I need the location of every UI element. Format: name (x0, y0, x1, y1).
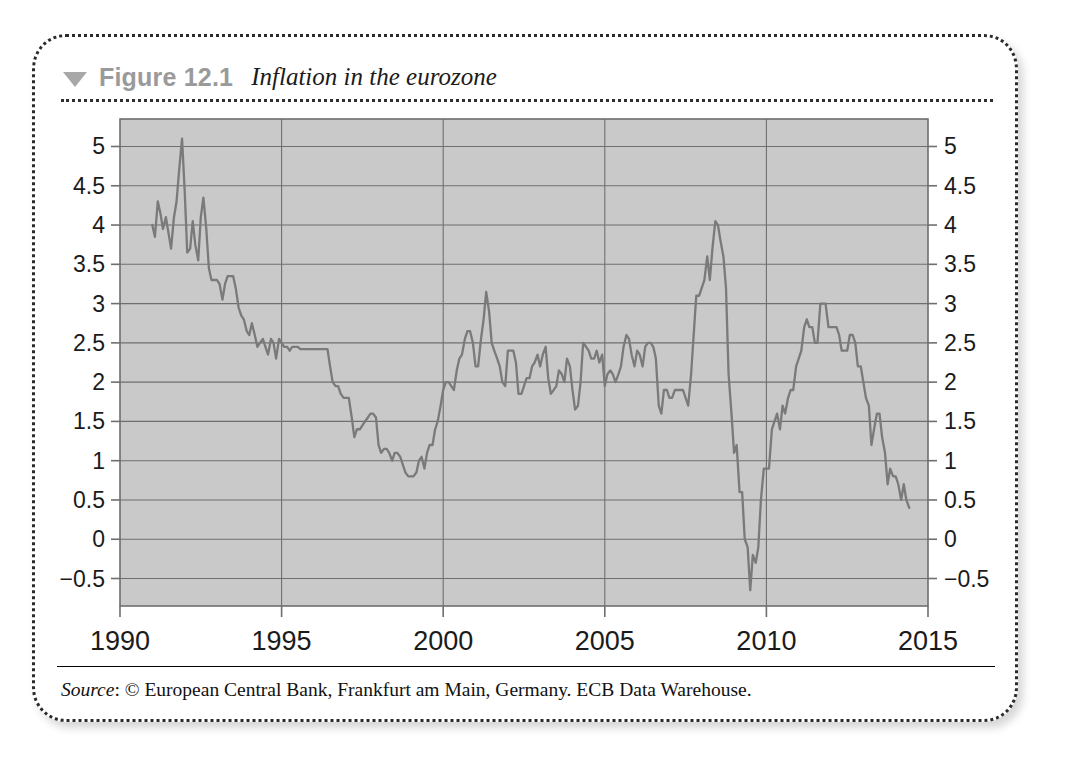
figure-card: Figure 12.1 Inflation in the eurozone −0… (32, 34, 1018, 722)
y-axis-label-right: 3.5 (944, 251, 976, 277)
inflation-line-chart: −0.5−0.5000.50.5111.51.5222.52.5333.53.5… (35, 109, 1021, 679)
source-note: Source: © European Central Bank, Frankfu… (61, 679, 752, 701)
plot-area-background (120, 119, 928, 606)
y-axis-label-left: 1.5 (73, 408, 105, 434)
source-body: : © European Central Bank, Frankfurt am … (114, 679, 751, 700)
y-axis-label-right: 1.5 (944, 408, 976, 434)
y-axis-label-left: 2 (92, 369, 105, 395)
x-axis-label: 1995 (252, 626, 312, 656)
y-axis-label-right: 0 (944, 526, 957, 552)
chart-container: −0.5−0.5000.50.5111.51.5222.52.5333.53.5… (35, 109, 1021, 679)
y-axis-label-left: −0.5 (60, 566, 105, 592)
x-axis-label: 2015 (898, 626, 958, 656)
y-axis-label-left: 5 (92, 133, 105, 159)
y-axis-label-right: 2 (944, 369, 957, 395)
y-axis-label-left: 1 (92, 448, 105, 474)
figure-title-row: Figure 12.1 Inflation in the eurozone (63, 57, 991, 97)
y-axis-label-right: 4.5 (944, 173, 976, 199)
y-axis-label-left: 4 (92, 212, 105, 238)
y-axis-label-right: 0.5 (944, 487, 976, 513)
figure-number-label: Figure 12.1 (99, 63, 233, 92)
figure-title: Inflation in the eurozone (251, 63, 497, 91)
x-axis-label: 2000 (413, 626, 473, 656)
y-axis-label-left: 4.5 (73, 173, 105, 199)
y-axis-label-right: −0.5 (944, 566, 989, 592)
y-axis-label-left: 0.5 (73, 487, 105, 513)
x-axis-label: 1990 (90, 626, 150, 656)
source-label: Source (61, 679, 114, 700)
source-divider (57, 666, 995, 667)
y-axis-label-right: 2.5 (944, 330, 976, 356)
y-axis-label-right: 4 (944, 212, 957, 238)
x-axis-label: 2005 (575, 626, 635, 656)
y-axis-label-left: 3 (92, 291, 105, 317)
x-axis-label: 2010 (736, 626, 796, 656)
triangle-down-icon (63, 72, 87, 87)
title-divider (61, 99, 993, 102)
y-axis-label-right: 1 (944, 448, 957, 474)
y-axis-label-left: 2.5 (73, 330, 105, 356)
y-axis-label-left: 3.5 (73, 251, 105, 277)
y-axis-label-left: 0 (92, 526, 105, 552)
y-axis-label-right: 3 (944, 291, 957, 317)
y-axis-label-right: 5 (944, 133, 957, 159)
